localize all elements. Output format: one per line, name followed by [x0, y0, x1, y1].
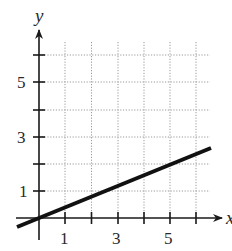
x-axis-label: x — [225, 207, 232, 228]
y-tick-label-3: 3 — [17, 128, 26, 147]
chart: 1 3 5 1 3 5 y x — [0, 0, 232, 251]
ticks — [33, 55, 196, 224]
x-tick-label-3: 3 — [112, 229, 121, 248]
grid — [39, 42, 210, 218]
axes — [16, 30, 222, 240]
y-axis-label: y — [33, 5, 44, 26]
x-tick-label-5: 5 — [164, 229, 173, 248]
y-tick-label-5: 5 — [17, 73, 26, 92]
x-tick-label-1: 1 — [60, 229, 69, 248]
y-tick-label-1: 1 — [19, 182, 28, 201]
data-line — [17, 148, 211, 227]
